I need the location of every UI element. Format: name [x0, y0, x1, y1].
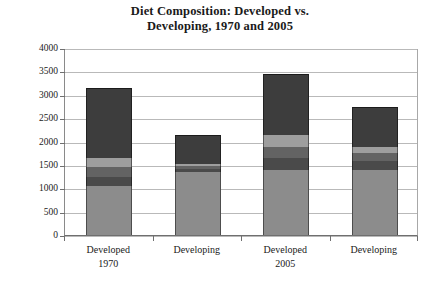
y-axis-tick-label: 2000 — [39, 138, 58, 148]
chart-container: Diet Composition: Developed vs. Developi… — [0, 0, 440, 282]
bar-segment — [352, 161, 398, 169]
bar-segment — [352, 107, 398, 147]
x-axis-tick — [330, 236, 331, 241]
bar-segment — [175, 135, 221, 163]
chart-title-line-2: Developing, 1970 and 2005 — [0, 19, 440, 34]
bar-segment — [352, 170, 398, 235]
y-axis-tick-label: 1000 — [39, 184, 58, 194]
y-axis-tick-label: 500 — [44, 208, 58, 218]
x-axis-tick — [241, 236, 242, 241]
bar-segment — [86, 88, 132, 158]
bar-segment — [86, 177, 132, 186]
y-axis-tick-label: 3500 — [39, 67, 58, 77]
bar-segment — [86, 167, 132, 176]
bar-segment — [263, 135, 309, 147]
x-axis-tick — [153, 236, 154, 241]
bar-segment — [175, 172, 221, 235]
y-axis-tick-label: 4000 — [39, 44, 58, 54]
bar-segment — [86, 158, 132, 167]
y-axis-tick-label: 0 — [53, 231, 58, 241]
bar-segment — [263, 74, 309, 136]
x-axis-tick — [64, 236, 65, 241]
bar-segment — [263, 147, 309, 158]
x-axis-label: Developing — [319, 243, 429, 257]
bar-stack — [352, 107, 398, 235]
y-axis-tick-label: 3000 — [39, 91, 58, 101]
x-axis-tick — [417, 236, 418, 241]
bar-segment — [263, 170, 309, 235]
chart-title: Diet Composition: Developed vs. Developi… — [0, 4, 440, 34]
bar-segment — [352, 153, 398, 161]
bar-series-group — [65, 49, 417, 235]
chart-title-line-1: Diet Composition: Developed vs. — [0, 4, 440, 19]
x-axis-label-year: 2005 — [230, 257, 340, 271]
bar-segment — [86, 186, 132, 235]
bar-stack — [263, 74, 309, 235]
plot-area — [64, 49, 418, 236]
bar-stack — [175, 135, 221, 235]
x-axis-label-year: 1970 — [53, 257, 163, 271]
bar-segment — [263, 158, 309, 170]
y-axis-tick-label: 1500 — [39, 161, 58, 171]
y-axis-tick-label: 2500 — [39, 114, 58, 124]
bar-stack — [86, 88, 132, 235]
x-axis-label-category: Developing — [319, 243, 429, 257]
x-axis-labels: Developed1970DevelopingDeveloped2005Deve… — [64, 243, 418, 279]
y-axis-labels: 40003500300025002000150010005000 — [0, 49, 58, 236]
